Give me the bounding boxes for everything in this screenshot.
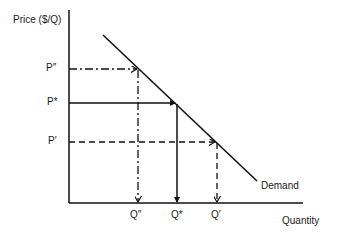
quantity-label-q-star: Q* [171,210,183,220]
y-axis-label: Price ($/Q) [13,15,61,25]
quantity-label-q-double-prime: Q″ [130,210,141,220]
diagram-canvas [0,0,337,233]
quantity-label-q-prime: Q′ [211,210,221,220]
demand-curve [103,35,257,181]
demand-label: Demand [261,181,299,191]
price-label-p-star: P* [47,97,58,107]
demand-diagram: Price ($/Q) P″ P* P′ Q″ Q* Q′ Demand Qua… [0,0,337,233]
price-label-p-double-prime: P″ [46,63,56,73]
x-axis-label: Quantity [282,216,319,226]
price-label-p-prime: P′ [48,136,57,146]
